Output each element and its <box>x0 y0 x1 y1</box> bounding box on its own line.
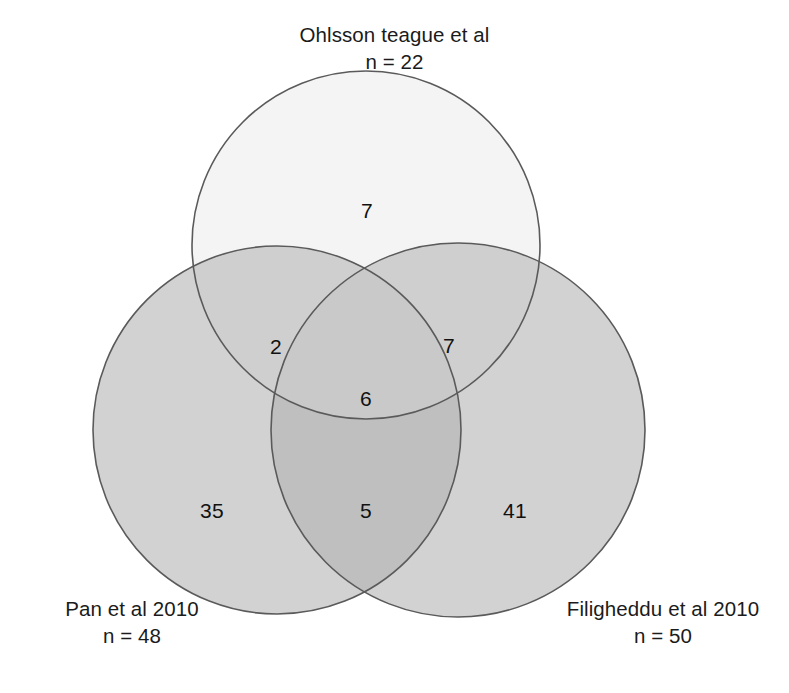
set-count-pan: n = 48 <box>14 623 250 650</box>
set-name-ohlsson: Ohlsson teague et al <box>0 22 789 49</box>
set-name-pan: Pan et al 2010 <box>14 596 250 623</box>
region-value-filigheddu-only: 41 <box>503 499 527 523</box>
region-value-top-only: 7 <box>361 199 373 223</box>
set-label-filigheddu: Filigheddu et al 2010 n = 50 <box>540 596 786 649</box>
region-value-all-three: 6 <box>360 387 372 411</box>
region-value-pan-only: 35 <box>200 499 224 523</box>
set-label-ohlsson: Ohlsson teague et al n = 22 <box>0 22 789 75</box>
set-count-ohlsson: n = 22 <box>0 49 789 76</box>
region-value-pan-filigheddu: 5 <box>360 499 372 523</box>
set-count-filigheddu: n = 50 <box>540 623 786 650</box>
set-name-filigheddu: Filigheddu et al 2010 <box>540 596 786 623</box>
region-value-ohlsson-pan: 2 <box>270 335 282 359</box>
region-value-ohlsson-filigheddu: 7 <box>443 334 455 358</box>
venn-circles <box>0 0 789 693</box>
set-label-pan: Pan et al 2010 n = 48 <box>14 596 250 649</box>
venn-diagram: Ohlsson teague et al n = 22 Pan et al 20… <box>0 0 789 693</box>
